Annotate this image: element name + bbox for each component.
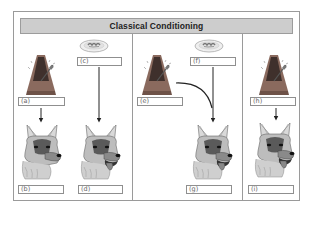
label-box-d[interactable]: (d) [78, 185, 123, 194]
label-box-c[interactable]: (c) [77, 57, 122, 66]
label-box-e[interactable]: (e) [137, 97, 183, 106]
dog-salivating-icon [255, 123, 294, 177]
label-box-f[interactable]: (f) [190, 57, 236, 66]
label-box-i[interactable]: (i) [248, 185, 294, 194]
food-bowl-icon [80, 40, 108, 52]
label-box-b[interactable]: (b) [18, 185, 64, 194]
metronome-icon [142, 55, 172, 95]
metronome-icon [259, 55, 289, 95]
label-box-g[interactable]: (g) [186, 185, 232, 194]
dog-icon [22, 125, 61, 179]
dog-salivating-icon [81, 125, 120, 179]
label-box-h[interactable]: (h) [250, 97, 296, 106]
label-box-a[interactable]: (a) [18, 97, 65, 106]
metronome-icon [26, 55, 56, 95]
food-bowl-icon [195, 40, 223, 52]
dog-salivating-icon [193, 125, 232, 179]
panel-after [255, 55, 294, 177]
